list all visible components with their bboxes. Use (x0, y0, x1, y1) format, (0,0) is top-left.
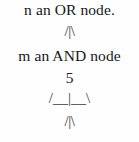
tree-branch-connector-wide: /__|__\ (0, 91, 139, 106)
and-node-description-line: m an AND node (0, 48, 139, 64)
document-fragment: n an OR node. /|\ m an AND node 5 /__|__… (0, 0, 139, 142)
tree-branch-connector-bottom: /|\ (0, 114, 139, 129)
node-number-label: 5 (0, 70, 139, 86)
or-node-description-line: n an OR node. (0, 2, 139, 18)
tree-branch-connector-top: /|\ (0, 24, 139, 39)
